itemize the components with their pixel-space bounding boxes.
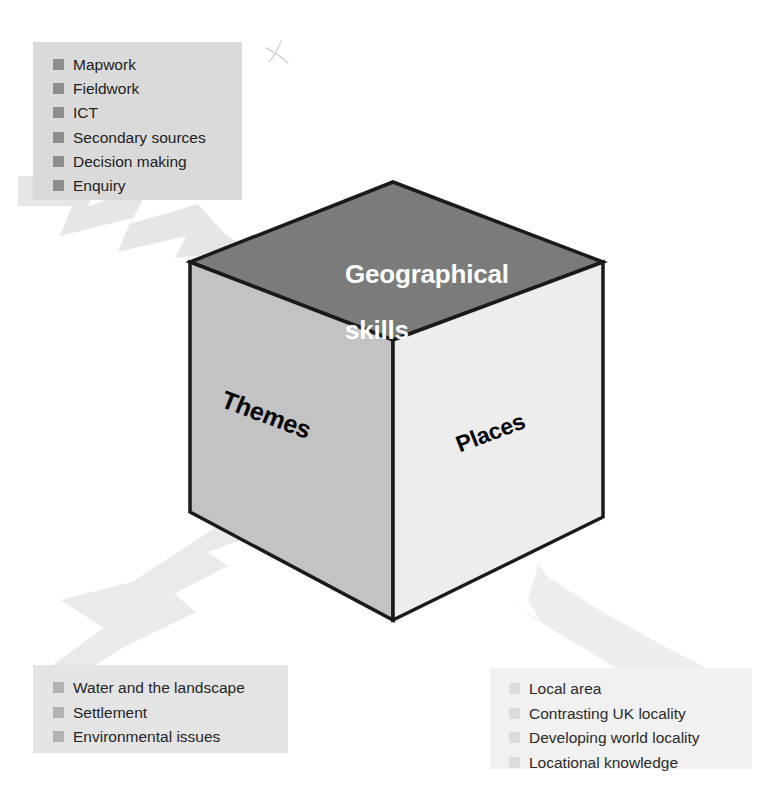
bullet-square-icon <box>53 731 64 742</box>
bullet-square-icon <box>53 180 64 191</box>
bullet-square-icon <box>509 732 520 743</box>
callout-places-list: Local area Contrasting UK locality Devel… <box>509 677 752 775</box>
list-item-label: Water and the landscape <box>73 676 245 701</box>
list-item: Fieldwork <box>53 77 242 101</box>
cube-top-face-label-line2: skills <box>345 316 509 344</box>
list-item: Developing world locality <box>509 726 752 751</box>
list-item: Contrasting UK locality <box>509 702 752 727</box>
list-item: Secondary sources <box>53 126 242 150</box>
bullet-square-icon <box>509 757 520 768</box>
list-item-label: Decision making <box>73 150 187 174</box>
list-item: Local area <box>509 677 752 702</box>
list-item-label: Secondary sources <box>73 126 206 150</box>
bullet-square-icon <box>509 683 520 694</box>
list-item-label: Mapwork <box>73 53 136 77</box>
bullet-square-icon <box>53 156 64 167</box>
bullet-square-icon <box>53 59 64 70</box>
list-item: Decision making <box>53 150 242 174</box>
list-item-label: Contrasting UK locality <box>529 702 686 727</box>
handwritten-x-mark-icon <box>262 36 296 70</box>
list-item: Mapwork <box>53 53 242 77</box>
list-item-label: ICT <box>73 101 98 125</box>
list-item-label: Settlement <box>73 701 147 726</box>
list-item-label: Fieldwork <box>73 77 139 101</box>
callout-skills: Mapwork Fieldwork ICT Secondary sources … <box>33 42 242 200</box>
list-item: ICT <box>53 101 242 125</box>
callout-themes: Water and the landscape Settlement Envir… <box>33 665 288 753</box>
list-item-label: Enquiry <box>73 174 126 198</box>
callout-themes-list: Water and the landscape Settlement Envir… <box>53 676 288 750</box>
list-item: Enquiry <box>53 174 242 198</box>
list-item: Settlement <box>53 701 288 726</box>
bullet-square-icon <box>53 682 64 693</box>
bullet-square-icon <box>53 107 64 118</box>
list-item-label: Locational knowledge <box>529 751 678 776</box>
cube-top-face-label: Geographical skills <box>345 232 509 372</box>
diagram-canvas: Geographical skills Themes Places Mapwor… <box>0 0 760 802</box>
cube-top-face-label-line1: Geographical <box>345 260 509 288</box>
bullet-square-icon <box>53 132 64 143</box>
list-item: Locational knowledge <box>509 751 752 776</box>
list-item: Environmental issues <box>53 725 288 750</box>
callout-skills-list: Mapwork Fieldwork ICT Secondary sources … <box>53 53 242 198</box>
list-item-label: Local area <box>529 677 601 702</box>
list-item-label: Developing world locality <box>529 726 700 751</box>
arrow-themes-to-left <box>40 516 241 676</box>
bullet-square-icon <box>53 707 64 718</box>
bullet-square-icon <box>509 708 520 719</box>
bullet-square-icon <box>53 83 64 94</box>
callout-places: Local area Contrasting UK locality Devel… <box>490 668 752 769</box>
list-item: Water and the landscape <box>53 676 288 701</box>
list-item-label: Environmental issues <box>73 725 220 750</box>
